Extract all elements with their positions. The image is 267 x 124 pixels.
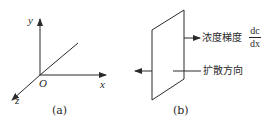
x-axis-label: x bbox=[100, 79, 105, 90]
coordinate-axes bbox=[12, 19, 106, 100]
fraction-numerator: dc bbox=[250, 26, 259, 36]
diagonal-line bbox=[40, 43, 78, 75]
parallelogram-plane bbox=[152, 10, 184, 100]
gradient-fraction: dc dx bbox=[249, 26, 261, 49]
gradient-label: 浓度梯度 bbox=[202, 33, 242, 43]
fraction-denominator: dx bbox=[250, 39, 260, 49]
caption-b: (b) bbox=[173, 105, 189, 116]
origin-label: O bbox=[39, 78, 47, 89]
plane-figure bbox=[135, 10, 201, 100]
z-axis-label: z bbox=[15, 95, 19, 106]
diffusion-direction-label: 扩散方向 bbox=[203, 66, 243, 76]
y-axis-label: y bbox=[28, 15, 33, 26]
caption-a: (a) bbox=[52, 105, 67, 116]
diagram-canvas bbox=[0, 0, 267, 124]
